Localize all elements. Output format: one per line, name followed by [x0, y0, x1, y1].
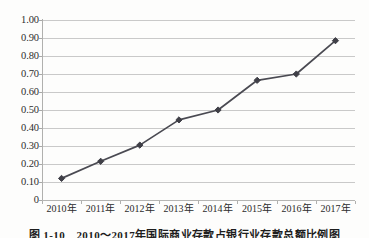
figure-caption-text: 图 1-10 2010～2017年国际商业存款占银行业存款总额比例图 [29, 226, 341, 238]
series-line [62, 41, 336, 179]
data-series [0, 0, 369, 215]
figure-container: 1.00 0.90 0.80 0.70 0.60 0.50 0.40 0.30 … [0, 0, 369, 238]
series-markers [58, 38, 338, 182]
data-point [58, 175, 64, 181]
data-point [98, 158, 104, 164]
figure-caption: 图 1-10 2010～2017年国际商业存款占银行业存款总额比例图 [0, 226, 369, 238]
line-chart: 1.00 0.90 0.80 0.70 0.60 0.50 0.40 0.30 … [0, 0, 369, 215]
